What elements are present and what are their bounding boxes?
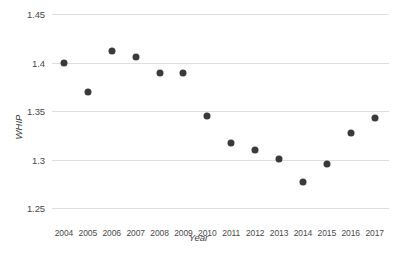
x-axis-title: Year (0, 232, 397, 243)
data-point (132, 53, 139, 60)
y-axis-tick-label: 1.3 (32, 154, 45, 165)
y-axis-tick-label: 1.45 (27, 9, 45, 20)
data-point (299, 178, 306, 185)
y-axis-tick-label: 1.35 (27, 106, 45, 117)
data-point (60, 59, 67, 66)
gridline-y (52, 160, 389, 161)
data-point (371, 114, 378, 121)
gridline-y (52, 63, 389, 64)
data-point (323, 161, 330, 168)
data-point (156, 70, 163, 77)
y-axis-title: WHIP (13, 115, 24, 140)
data-point (228, 140, 235, 147)
data-point (204, 112, 211, 119)
data-point (108, 47, 115, 54)
data-point (276, 155, 283, 162)
data-point (252, 146, 259, 153)
gridline-y (52, 208, 389, 209)
data-point (347, 130, 354, 137)
y-axis-tick-label: 1.25 (27, 203, 45, 214)
data-point (180, 70, 187, 77)
gridline-y (52, 14, 389, 15)
plot-area: 1.451.41.351.31.252004200520062007200820… (52, 14, 389, 208)
scatter-chart: WHIP 1.451.41.351.31.2520042005200620072… (0, 0, 397, 254)
clipped-header-text (52, 0, 352, 3)
gridline-y (52, 111, 389, 112)
y-axis-tick-label: 1.4 (32, 57, 45, 68)
data-point (84, 88, 91, 95)
